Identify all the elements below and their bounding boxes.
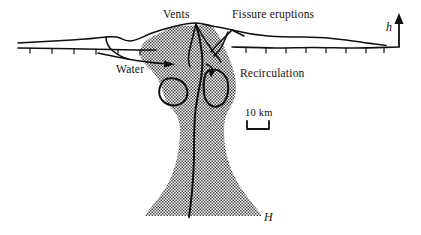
label-depth-symbol: H — [264, 211, 273, 223]
label-water: Water — [116, 64, 144, 76]
label-fissure-eruptions: Fissure eruptions — [232, 9, 314, 21]
label-recirculation: Recirculation — [240, 68, 305, 80]
plume-diagram-figure: Vents Fissure eruptions Water Recirculat… — [0, 0, 421, 235]
height-arrow — [395, 13, 404, 47]
label-vents: Vents — [163, 9, 190, 21]
label-height-symbol: h — [386, 21, 392, 33]
scale-bar-label: 10 km — [245, 108, 273, 119]
diagram-canvas — [0, 0, 421, 235]
scale-bar — [247, 121, 269, 129]
